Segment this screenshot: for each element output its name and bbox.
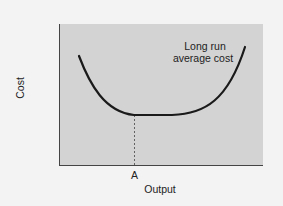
curve-label-line1: Long run [184,40,226,52]
y-axis-title: Cost [14,77,26,99]
x-axis-title: Output [144,183,176,195]
x-tick-label-a: A [131,169,138,181]
lrac-chart: Long run average cost A Output Cost [0,0,283,206]
plot-area [59,24,263,165]
curve-label-line2: average cost [173,52,233,64]
